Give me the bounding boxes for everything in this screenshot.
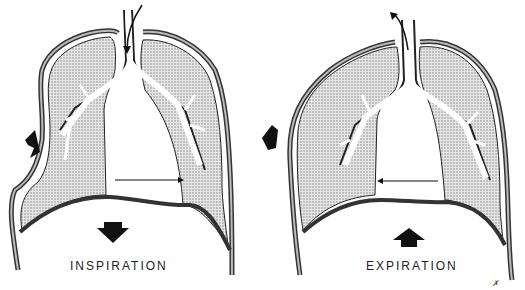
left-lung (297, 47, 399, 230)
chest-arrow (262, 125, 278, 150)
diaphragm-up-arrow (401, 240, 417, 247)
expiration-panel: ✗ (262, 12, 512, 288)
lung-diagram: ✗ (0, 0, 525, 290)
inspiration-label: INSPIRATION (70, 259, 168, 273)
right-lung (419, 47, 503, 240)
inspiration-panel (11, 5, 232, 275)
artist-signature: ✗ (492, 279, 500, 288)
expiration-label: EXPIRATION (366, 259, 458, 273)
